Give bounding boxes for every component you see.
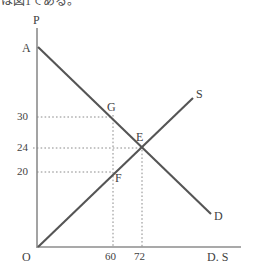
point-label-g: G: [107, 101, 116, 113]
supply-end-label-s: S: [196, 88, 203, 100]
point-label-f: F: [115, 172, 122, 184]
y-axis-label: P: [33, 14, 40, 26]
demand-start-label-a: A: [22, 42, 31, 54]
y-tick-30: 30: [17, 111, 28, 122]
x-tick-60: 60: [105, 251, 116, 262]
y-tick-20: 20: [17, 166, 28, 177]
demand-end-label-d: D: [214, 210, 223, 222]
x-tick-72: 72: [134, 251, 145, 262]
figure-page: は図1である。 P A S D G E F O D. S 30 24 20 60…: [0, 0, 262, 274]
demand-curve: [38, 47, 211, 214]
origin-label: O: [22, 251, 31, 263]
point-label-e: E: [136, 131, 143, 143]
x-axis-label: D. S: [207, 251, 228, 263]
supply-demand-figure: [0, 0, 262, 274]
y-tick-24: 24: [17, 142, 28, 153]
